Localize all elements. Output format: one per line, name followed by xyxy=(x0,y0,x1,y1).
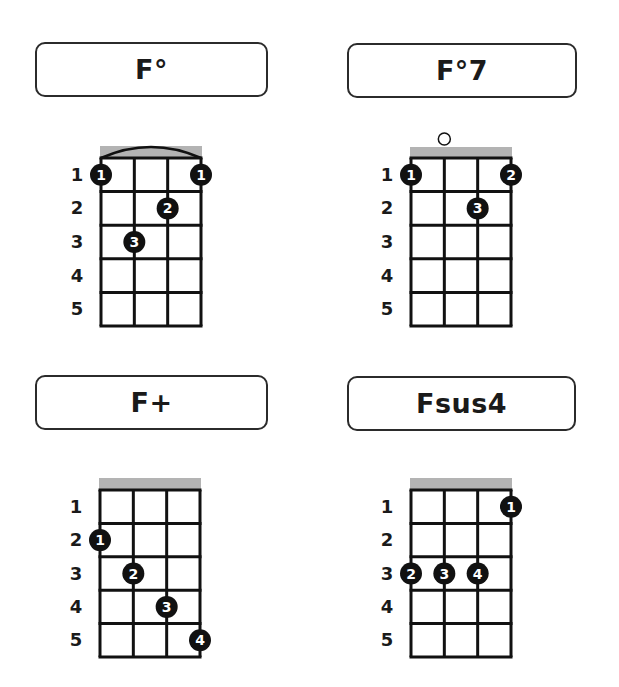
finger-number: 4 xyxy=(195,632,205,648)
finger-number: 3 xyxy=(439,566,449,582)
chord-diagram-3: 123451234 xyxy=(381,478,522,657)
finger-number: 1 xyxy=(506,499,516,515)
fret-number-label: 1 xyxy=(71,164,84,185)
finger-number: 2 xyxy=(163,200,173,216)
fret-number-label: 4 xyxy=(381,265,394,286)
fret-number-label: 4 xyxy=(381,596,394,617)
fret-number-label: 2 xyxy=(70,529,83,550)
fret-number-label: 4 xyxy=(71,265,84,286)
fret-number-label: 5 xyxy=(381,298,394,319)
chord-diagrams: 12345112312345123123451234123451234 xyxy=(0,0,619,687)
chord-diagram-2: 123451234 xyxy=(70,478,211,657)
finger-number: 3 xyxy=(162,599,172,615)
fret-number-label: 3 xyxy=(71,231,84,252)
fret-number-label: 2 xyxy=(71,197,84,218)
nut xyxy=(99,478,201,490)
finger-number: 1 xyxy=(96,167,106,183)
fret-number-label: 2 xyxy=(381,529,394,550)
finger-number: 2 xyxy=(128,566,138,582)
fret-number-label: 1 xyxy=(70,496,83,517)
fret-number-label: 4 xyxy=(70,596,83,617)
finger-number: 1 xyxy=(95,532,105,548)
fret-number-label: 1 xyxy=(381,164,394,185)
fret-number-label: 2 xyxy=(381,197,394,218)
fret-number-label: 3 xyxy=(381,231,394,252)
finger-number: 3 xyxy=(473,200,483,216)
finger-number: 2 xyxy=(406,566,416,582)
fret-number-label: 5 xyxy=(381,629,394,650)
fret-number-label: 5 xyxy=(71,298,84,319)
fret-number-label: 3 xyxy=(381,563,394,584)
finger-number: 4 xyxy=(473,566,483,582)
fret-number-label: 1 xyxy=(381,496,394,517)
finger-number: 1 xyxy=(406,167,416,183)
chord-diagram-1: 12345123 xyxy=(381,133,522,326)
open-string-icon xyxy=(438,133,450,145)
chord-diagram-0: 123451123 xyxy=(71,146,212,326)
finger-number: 3 xyxy=(129,234,139,250)
finger-number: 1 xyxy=(196,167,206,183)
nut xyxy=(410,478,512,490)
nut xyxy=(410,147,512,158)
fret-number-label: 5 xyxy=(70,629,83,650)
finger-number: 2 xyxy=(506,167,516,183)
fret-number-label: 3 xyxy=(70,563,83,584)
